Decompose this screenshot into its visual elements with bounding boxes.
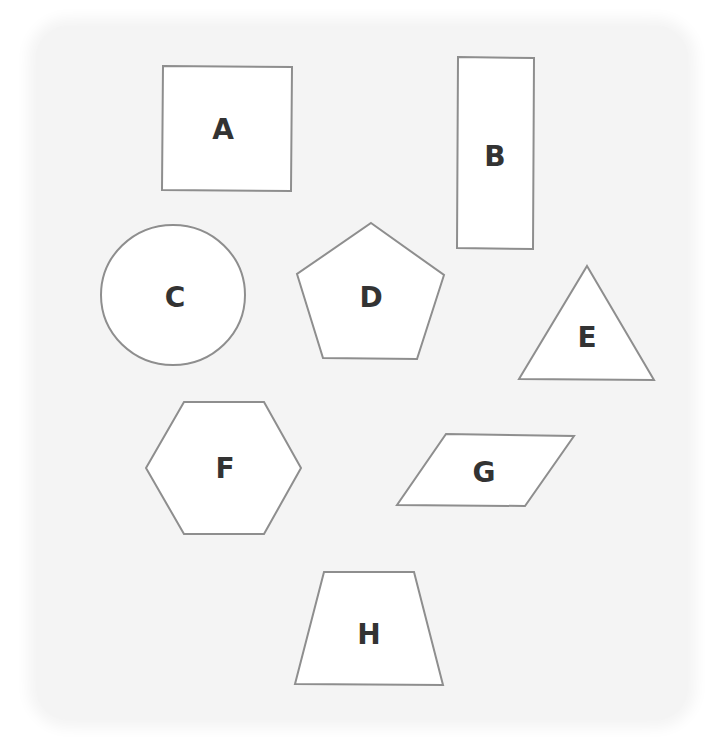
shapes-diagram: A B C D E F G H xyxy=(0,0,707,744)
shape-a-label: A xyxy=(212,113,234,146)
shape-d-pentagon: D xyxy=(297,223,444,359)
shape-e-triangle: E xyxy=(519,266,654,380)
shape-a-square: A xyxy=(162,66,292,191)
shape-c-label: C xyxy=(165,281,186,314)
shape-f-hexagon: F xyxy=(146,402,301,534)
shape-b-rectangle: B xyxy=(457,57,534,249)
shape-g-parallelogram: G xyxy=(397,434,574,506)
shape-h-trapezoid: H xyxy=(295,572,443,685)
shape-b-label: B xyxy=(484,140,505,173)
shape-e-label: E xyxy=(577,321,596,354)
shape-g-label: G xyxy=(473,456,496,489)
shape-c-circle: C xyxy=(101,225,245,365)
shape-f-label: F xyxy=(215,452,234,485)
shape-d-label: D xyxy=(359,281,382,314)
shape-h-label: H xyxy=(357,618,380,651)
